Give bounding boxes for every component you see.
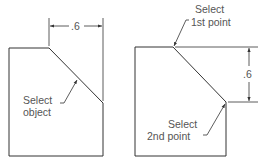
right-bottom-leader-line (203, 104, 225, 135)
chamfer-diagram: .6 Select object .6 Select 1st point Sel… (0, 0, 266, 164)
right-top-callout-line1: Select (195, 3, 224, 15)
left-callout-line2: object (23, 106, 51, 118)
left-figure: .6 Select object (9, 18, 103, 156)
left-leader-line (60, 80, 77, 103)
right-figure: .6 Select 1st point Select 2nd point (135, 3, 258, 156)
right-dimension-value: .6 (243, 68, 252, 80)
left-dimension-value: .6 (71, 20, 80, 32)
right-bottom-callout-line2: 2nd point (147, 130, 190, 142)
right-bottom-callout-line1: Select (168, 118, 197, 130)
right-top-callout-line2: 1st point (191, 16, 231, 28)
left-callout-line1: Select (23, 94, 52, 106)
right-top-leader-line (174, 20, 189, 46)
